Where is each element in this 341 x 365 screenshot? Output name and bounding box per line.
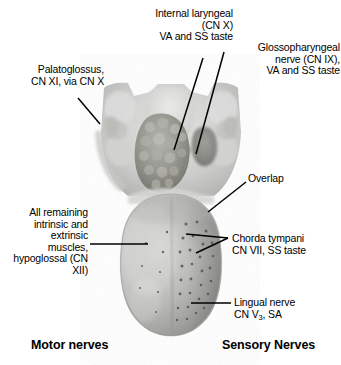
label-lingual-nerve: Lingual nerveCN V3, SA	[234, 297, 339, 321]
label-internal-laryngeal: Internal laryngeal (CN X) VA and SS tast…	[108, 8, 233, 43]
label-glossopharyngeal-nerve: Glossopharyngeal nerve (CN IX), VA and S…	[228, 42, 340, 77]
label-overlap: Overlap	[248, 173, 318, 185]
tongue-innervation-figure: Internal laryngeal (CN X) VA and SS tast…	[0, 0, 341, 365]
label-layer: Internal laryngeal (CN X) VA and SS tast…	[0, 0, 341, 365]
lingual-nerve-cn-subscript: 3	[259, 313, 263, 322]
label-all-remaining-muscles: All remaining intrinsic and extrinsic mu…	[0, 207, 88, 277]
lingual-nerve-cn-pre: CN V	[234, 308, 259, 320]
section-label-motor-nerves: Motor nerves	[31, 338, 108, 352]
lingual-nerve-line1: Lingual nerve	[234, 296, 295, 308]
label-palatoglossus: Palatoglossus, CN XI, via CN X	[2, 64, 104, 87]
label-chorda-tympani: Chorda tympani CN VII, SS taste	[232, 233, 340, 256]
lingual-nerve-cn-post: , SA	[263, 308, 282, 320]
section-label-sensory-nerves: Sensory Nerves	[222, 338, 315, 352]
